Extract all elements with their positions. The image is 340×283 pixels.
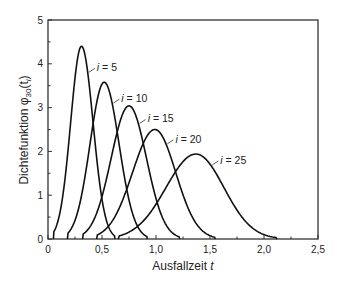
density-curve xyxy=(53,46,115,239)
series-label: i = 20 xyxy=(175,133,201,145)
x-tick-label: 2,0 xyxy=(257,244,271,255)
label-leader xyxy=(140,119,146,123)
density-chart: i = 5i = 10i = 15i = 20i = 25 00,51,01,5… xyxy=(0,0,340,283)
label-leader xyxy=(167,140,173,144)
x-tick-label: 2,5 xyxy=(311,244,325,255)
y-tick-label: 2 xyxy=(37,146,43,157)
density-curves xyxy=(53,46,277,239)
y-tick-label: 0 xyxy=(37,234,43,245)
series-label: i = 5 xyxy=(97,61,117,73)
x-tick-label: 0 xyxy=(45,244,51,255)
y-tick-label: 5 xyxy=(37,15,43,26)
density-curve xyxy=(67,82,147,239)
series-label: i = 10 xyxy=(121,92,147,104)
label-leader xyxy=(113,99,119,103)
x-tick-label: 1,0 xyxy=(149,244,163,255)
x-tick-label: 0,5 xyxy=(95,244,109,255)
y-tick-label: 1 xyxy=(37,190,43,201)
plot-frame xyxy=(48,20,318,239)
series-label: i = 25 xyxy=(220,154,246,166)
y-tick-label: 4 xyxy=(37,58,43,69)
label-leader xyxy=(89,68,95,72)
y-tick-label: 3 xyxy=(37,102,43,113)
y-axis-title: Dichtefunktion φ30(ti) xyxy=(17,75,33,184)
plot-area-border xyxy=(48,20,318,239)
label-leader xyxy=(212,161,218,165)
x-tick-label: 1,5 xyxy=(203,244,217,255)
x-axis-title: Ausfallzeit t xyxy=(152,259,214,273)
series-label: i = 15 xyxy=(148,112,174,124)
density-curve xyxy=(83,106,180,239)
